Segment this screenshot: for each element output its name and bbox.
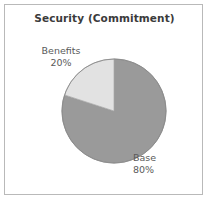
pie-label-base-value: 80% — [133, 164, 193, 176]
pie-label-benefits: Benefits 20% — [33, 45, 89, 68]
pie-label-benefits-name: Benefits — [33, 45, 89, 57]
pie-label-benefits-value: 20% — [33, 57, 89, 69]
pie-label-base-name: Base — [133, 152, 193, 164]
pie-label-base: Base 80% — [133, 152, 193, 175]
chart-frame: Security (Commitment) Benefits 20% Base … — [4, 4, 203, 195]
